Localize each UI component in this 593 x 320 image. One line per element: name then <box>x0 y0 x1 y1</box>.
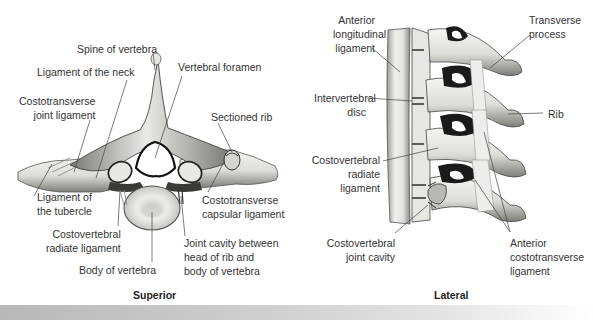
caption-superior: Superior <box>133 289 176 301</box>
label-anterior-longitudinal-ligament: Anterior longitudinal ligament <box>333 13 375 55</box>
label-costovertebral-radiate-ligament-lateral: Costovertebral radiate ligament <box>310 153 380 195</box>
label-rib: Rib <box>548 107 564 121</box>
label-costotransverse-capsular-ligament: Costotransverse capsular ligament <box>202 193 284 221</box>
label-joint-cavity: Joint cavity between head of rib and bod… <box>184 236 279 278</box>
label-transverse-process: Transverse process <box>529 13 581 41</box>
label-ligament-of-the-tubercle: Ligament of the tubercle <box>37 190 92 218</box>
label-vertebral-foramen: Vertebral foramen <box>178 60 261 74</box>
anatomy-figure: Spine of vertebra Ligament of the neck V… <box>0 0 593 320</box>
label-costovertebral-joint-cavity: Costovertebral joint cavity <box>323 236 395 264</box>
label-costotransverse-joint-ligament: Costotransverse joint ligament <box>19 94 95 122</box>
label-sectioned-rib: Sectioned rib <box>211 110 272 124</box>
label-spine-of-vertebra: Spine of vertebra <box>77 42 157 56</box>
label-costovertebral-radiate-ligament: Costovertebral radiate ligament <box>46 227 121 255</box>
label-ligament-of-the-neck: Ligament of the neck <box>37 65 134 79</box>
label-anterior-costotransverse-ligament: Anterior costotransverse ligament <box>510 236 584 278</box>
caption-lateral: Lateral <box>434 289 468 301</box>
label-body-of-vertebra: Body of vertebra <box>79 263 156 277</box>
label-intervertebral-disc: Intervertebral disc <box>314 91 366 119</box>
bottom-gradient-bar <box>0 305 593 320</box>
